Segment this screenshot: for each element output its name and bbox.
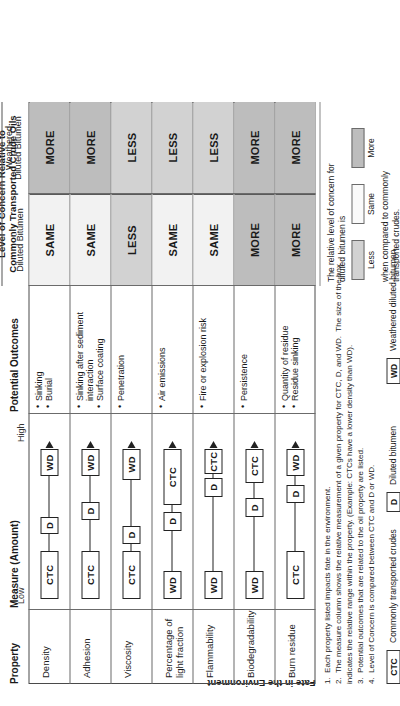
row-property-label: Viscosity	[121, 614, 132, 678]
key-box-wd: WD	[386, 358, 400, 384]
row-property-label: Adhesion	[80, 614, 91, 678]
note-line: 2. The measure column shows the relative…	[334, 264, 343, 684]
legend-swatch-label-same: Same	[366, 184, 376, 224]
row-property-label: Percentage oflight fraction	[162, 614, 184, 678]
outcome-item: Fire or explosion risk	[197, 290, 207, 408]
measure-box-ctc: CTC	[122, 551, 140, 599]
measure-arrow-icon	[168, 441, 176, 448]
concern-title-rule	[1, 102, 2, 286]
row-outcomes: Fire or explosion risk	[197, 290, 207, 408]
legend-swatch-label-more: More	[366, 128, 376, 168]
row-outcomes: Penetration	[115, 290, 125, 408]
column-separator	[28, 413, 315, 414]
row-outcomes: Persistence	[238, 290, 248, 408]
measure-arrow-icon	[127, 441, 135, 448]
measure-box-wd: WD	[122, 449, 140, 480]
legend-swatch-same	[351, 184, 364, 224]
measure-box-d: D	[204, 478, 222, 497]
concern-cell-weathered: LESS	[193, 102, 233, 193]
legend-swatch-more	[351, 128, 364, 168]
outcome-item: Penetration	[115, 290, 125, 408]
measure-box-ctc: CTC	[163, 449, 181, 505]
measure-box-ctc: CTC	[81, 551, 99, 599]
outcome-item: Burial	[43, 290, 53, 408]
concern-cell-diluted: SAME	[70, 194, 110, 285]
legend-intro: The relative level of concern fordiluted…	[325, 163, 346, 282]
column-separator	[28, 609, 315, 610]
outcome-item: Surface coating	[94, 290, 104, 408]
outcome-item: Air emissions	[156, 290, 166, 408]
note-line: 3. Potential outcomes that are related t…	[356, 448, 365, 684]
concern-subheader-diluted: Diluted Bitumen	[14, 194, 24, 286]
note-line: 1. Each property listed impacts fate in …	[323, 487, 332, 684]
measure-box-d: D	[40, 517, 58, 534]
measure-axis-low: Low	[15, 587, 25, 604]
measure-box-d: D	[286, 485, 304, 504]
concern-cell-diluted: SAME	[193, 194, 233, 285]
measure-box-wd: WD	[81, 449, 99, 476]
column-header-outcomes: Potential Outcomes	[8, 318, 19, 412]
measure-box-d: D	[163, 512, 181, 531]
row-property-label: Density	[39, 614, 50, 678]
measure-box-d: D	[245, 498, 263, 517]
measure-box-ctc: CTC	[245, 449, 263, 483]
concern-cell-diluted: SAME	[29, 194, 69, 285]
row-outcomes: Air emissions	[156, 290, 166, 408]
note-line: 4. Level of Concern is compared between …	[367, 465, 376, 684]
legend-swatch-less	[351, 240, 364, 280]
outcome-item: Sinking after sediment interaction	[74, 290, 94, 408]
concern-cell-weathered: LESS	[152, 102, 192, 193]
concern-cell-weathered: MORE	[234, 102, 274, 193]
legend-swatch-label-less: Less	[366, 240, 376, 280]
key-label-d: Diluted bitumen	[388, 426, 398, 485]
measure-arrow-icon	[86, 441, 94, 448]
measure-box-wd: WD	[40, 449, 58, 476]
measure-box-d: D	[81, 502, 99, 521]
measure-box-ctc: CTC	[286, 551, 304, 599]
measure-box-wd: WD	[204, 571, 222, 598]
measure-box-wd: WD	[245, 571, 263, 598]
measure-box-d: D	[122, 526, 140, 545]
concern-cell-weathered: MORE	[70, 102, 110, 193]
concern-cell-diluted: MORE	[275, 194, 315, 285]
concern-cell-weathered: MORE	[29, 102, 69, 193]
concern-cell-diluted: LESS	[111, 194, 151, 285]
measure-box-wd: WD	[163, 571, 181, 598]
key-box-ctc: CTC	[386, 650, 400, 684]
legend-outro: when compared to commonlytransported cru…	[379, 171, 400, 282]
measure-arrow-icon	[45, 441, 53, 448]
row-outcomes: Sinking after sediment interactionSurfac…	[74, 290, 104, 408]
key-box-d: D	[386, 492, 400, 512]
measure-arrow-icon	[291, 441, 299, 448]
outcome-item: Persistence	[238, 290, 248, 408]
outcome-item: Sinking	[33, 290, 43, 408]
outcome-item: Quantity of residue	[279, 290, 289, 408]
row-property-label: Biodegradability	[244, 614, 255, 678]
concern-cell-weathered: LESS	[111, 102, 151, 193]
concern-cell-weathered: MORE	[275, 102, 315, 193]
row-outcomes: SinkingBurial	[33, 290, 53, 408]
note-line: indicates the relative range within the …	[345, 345, 354, 684]
measure-arrow-icon	[250, 441, 258, 448]
concern-cell-diluted: MORE	[234, 194, 274, 285]
concern-cell-diluted: SAME	[152, 194, 192, 285]
concern-subheader-weathered: WeatheredDiluted Bitumen	[4, 102, 23, 194]
measure-arrow-icon	[209, 441, 217, 448]
measure-box-ctc: CTC	[40, 551, 58, 599]
notes-rule	[319, 102, 320, 286]
row-property-label: Burn residue	[285, 614, 296, 678]
column-header-property: Property	[8, 643, 19, 684]
row-property-label: Flammability	[203, 614, 214, 678]
row-outcomes: Quantity of residueResidue sinking	[279, 290, 299, 408]
outcome-item: Residue sinking	[289, 290, 299, 408]
column-separator	[28, 285, 315, 286]
measure-box-wd: WD	[286, 449, 304, 476]
key-label-ctc: Commonly transported crudes	[388, 529, 398, 643]
measure-box-ctc: CTC	[204, 449, 222, 475]
measure-axis-high: High	[15, 423, 25, 442]
